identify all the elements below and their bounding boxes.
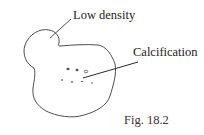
low-density-label: Low density xyxy=(73,9,135,22)
calcification-label: Calcification xyxy=(133,46,198,59)
figure-caption: Fig. 18.2 xyxy=(124,114,169,127)
calcification-dot xyxy=(84,70,88,73)
mass-outline xyxy=(24,30,116,117)
calcification-dot xyxy=(91,82,93,84)
low-density-leader-line xyxy=(50,19,71,38)
calcification-leader-line xyxy=(83,62,138,78)
calcification-dot xyxy=(76,69,79,71)
calcification-dot xyxy=(66,68,69,71)
calcification-dot xyxy=(71,81,73,82)
calcification-dots xyxy=(61,68,93,84)
calcification-dot xyxy=(81,81,84,82)
figure-18-2: Low density Calcification Fig. 18.2 xyxy=(0,0,204,135)
calcification-dot xyxy=(61,79,63,81)
